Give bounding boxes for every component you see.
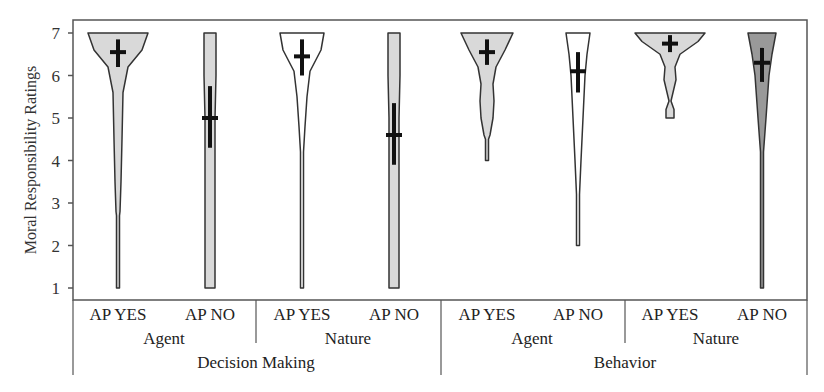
x-axis: AP YESAP NOAP YESAP NOAP YESAP NOAP YESA… — [73, 300, 807, 375]
x-label-subgroup: Nature — [693, 329, 739, 348]
violin — [202, 33, 218, 288]
y-tick-label: 5 — [52, 109, 61, 128]
y-tick-label: 7 — [52, 24, 61, 43]
y-tick-label: 1 — [52, 279, 61, 298]
x-label-condition: AP YES — [274, 305, 331, 324]
y-axis-title: Moral Responsibility Ratings — [22, 66, 40, 254]
x-label-condition: AP NO — [369, 305, 419, 324]
x-label-condition: AP YES — [90, 305, 147, 324]
x-label-condition: AP NO — [185, 305, 235, 324]
x-label-subgroup: Agent — [511, 329, 553, 348]
violin — [386, 33, 402, 288]
plot-frame — [73, 20, 807, 300]
violin-body — [204, 33, 216, 288]
x-label-subgroup: Nature — [325, 329, 371, 348]
x-label-condition: AP YES — [459, 305, 516, 324]
y-axis: 1234567 — [52, 24, 74, 298]
y-tick-label: 2 — [52, 237, 61, 256]
x-label-condition: AP NO — [553, 305, 603, 324]
x-label-subgroup: Agent — [143, 329, 185, 348]
y-tick-label: 6 — [52, 67, 61, 86]
y-tick-label: 3 — [52, 194, 61, 213]
x-label-condition: AP YES — [642, 305, 699, 324]
x-label-group: Decision Making — [197, 353, 315, 372]
y-tick-label: 4 — [52, 152, 61, 171]
plot-area — [73, 20, 807, 300]
x-label-condition: AP NO — [737, 305, 787, 324]
x-label-group: Behavior — [594, 353, 657, 372]
violin-chart: 1234567 AP YESAP NOAP YESAP NOAP YESAP N… — [0, 0, 824, 392]
